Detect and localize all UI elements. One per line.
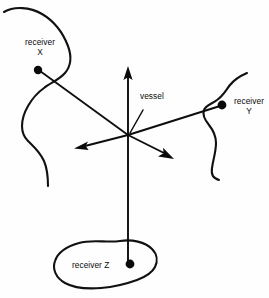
arrow-head-down-right	[158, 148, 174, 159]
diagram-canvas: receiver X receiver Y receiver Z vessel	[0, 0, 269, 298]
label-receiver-x: receiver X	[14, 38, 66, 57]
label-vessel: vessel	[140, 92, 186, 102]
ray-to-receiver-x	[40, 71, 128, 135]
vessel-leader-line	[130, 110, 143, 133]
label-receiver-y: receiver Y	[229, 97, 269, 116]
receiver-x-dot	[34, 66, 42, 74]
receiver-y-dot	[218, 101, 227, 110]
ray-down-right	[128, 135, 164, 153]
label-receiver-y-line1: receiver	[234, 96, 264, 106]
coastline-top-left	[4, 8, 70, 186]
label-receiver-x-line1: receiver	[25, 37, 55, 47]
ray-left	[85, 135, 128, 146]
coastline-right	[203, 73, 247, 180]
label-receiver-y-line2: Y	[229, 107, 269, 117]
label-receiver-x-line2: X	[14, 48, 66, 58]
label-receiver-z: receiver Z	[72, 261, 132, 271]
